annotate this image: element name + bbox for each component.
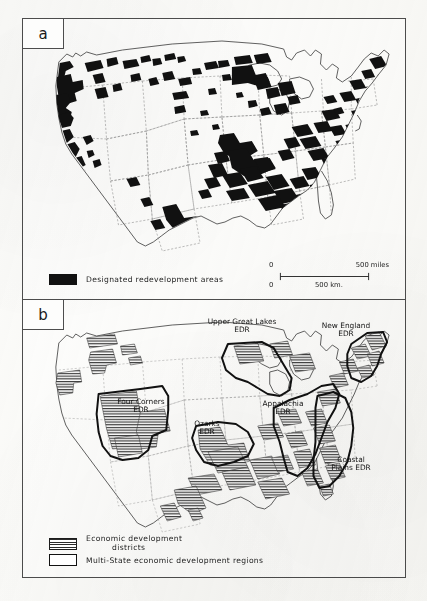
legend-row-regions: Multi-State economic development regions: [49, 554, 263, 566]
legend-panel-b: Economic development districts Multi-Sta…: [49, 535, 263, 568]
scale-km-value: 500 km.: [315, 281, 343, 289]
legend-swatch-solid-black: [49, 274, 77, 285]
panel-a-map: [23, 19, 405, 299]
map-label-four-corners: Four Corners EDR: [105, 398, 177, 414]
map-a-svg: [23, 19, 405, 299]
redevelopment-areas: [54, 53, 390, 238]
panel-a: a: [23, 19, 405, 299]
scale-bar-graphic: [269, 272, 389, 281]
map-label-upper-great-lakes: Upper Great Lakes EDR: [199, 318, 285, 334]
legend-panel-a: Designated redevelopment areas: [49, 274, 223, 285]
legend-swatch-hatch: [49, 538, 77, 550]
scale-bar: 0 500 miles 0 500 km.: [269, 261, 389, 291]
map-label-new-england: New England EDR: [313, 322, 379, 338]
scale-miles-value: 500 miles: [356, 261, 389, 269]
panel-b-tag: b: [23, 300, 64, 330]
legend-label-regions: Multi-State economic development regions: [86, 556, 263, 565]
map-label-ozarks: Ozarks EDR: [183, 420, 231, 436]
panel-b: b: [23, 299, 405, 580]
legend-label-redevelopment: Designated redevelopment areas: [86, 275, 223, 284]
scale-km-zero: 0: [269, 281, 273, 289]
panel-a-tag: a: [23, 19, 64, 49]
figure-frame: a: [22, 18, 406, 578]
legend-swatch-open-outline: [49, 554, 77, 566]
legend-label-districts-line2: districts: [86, 544, 182, 553]
scale-miles-zero: 0: [269, 261, 273, 269]
legend-row-districts: Economic development districts: [49, 535, 263, 552]
map-label-coastal-plains: Coastal Plains EDR: [319, 456, 383, 472]
map-label-appalachia: Appalachia EDR: [251, 400, 315, 416]
